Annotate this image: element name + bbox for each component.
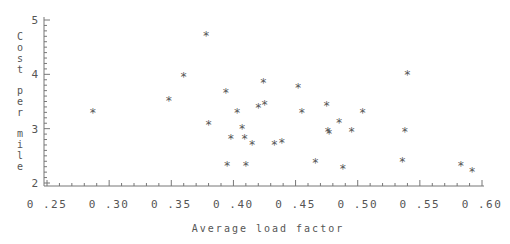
data-point: * — [335, 116, 342, 130]
data-point: * — [323, 99, 330, 113]
svg-text:0 .45: 0 .45 — [275, 198, 316, 211]
svg-text:e: e — [17, 96, 23, 107]
svg-text:0 .50: 0 .50 — [337, 198, 378, 211]
svg-text:s: s — [17, 53, 23, 64]
svg-text:2: 2 — [31, 177, 38, 190]
data-point: * — [165, 94, 172, 108]
data-point: * — [222, 86, 229, 100]
svg-text:o: o — [17, 42, 23, 53]
data-points: ********************************* — [89, 29, 475, 179]
data-point: * — [294, 81, 301, 95]
data-point: * — [261, 98, 268, 112]
scatter-chart: 2345 0 .250 .300 .350 .400 .450 .500 .55… — [0, 0, 510, 244]
data-point: * — [339, 162, 346, 176]
svg-text:0 .25: 0 .25 — [27, 198, 68, 211]
svg-text:r: r — [17, 107, 23, 118]
data-point: * — [180, 70, 187, 84]
svg-text:3: 3 — [31, 123, 38, 136]
svg-text:0 .60: 0 .60 — [462, 198, 503, 211]
data-point: * — [271, 138, 278, 152]
svg-text:m: m — [17, 128, 23, 139]
data-point: * — [468, 165, 475, 179]
data-point: * — [234, 106, 241, 120]
y-tick-labels: 2345 — [31, 14, 38, 190]
svg-text:0 .55: 0 .55 — [400, 198, 441, 211]
data-point: * — [312, 156, 319, 170]
svg-text:l: l — [17, 150, 23, 161]
data-point: * — [278, 136, 285, 150]
svg-text:p: p — [17, 85, 23, 96]
data-point: * — [359, 106, 366, 120]
data-point: * — [248, 138, 255, 152]
svg-text:t: t — [17, 64, 23, 75]
data-point: * — [401, 125, 408, 139]
data-point: * — [202, 29, 209, 43]
data-point: * — [326, 127, 333, 141]
data-point: * — [260, 76, 267, 90]
data-point: * — [241, 132, 248, 146]
x-axis-label: Average load factor — [192, 223, 344, 234]
data-point: * — [457, 159, 464, 173]
data-point: * — [399, 155, 406, 169]
data-point: * — [205, 118, 212, 132]
svg-text:0 .40: 0 .40 — [213, 198, 254, 211]
svg-text:e: e — [17, 161, 23, 172]
data-point: * — [298, 106, 305, 120]
svg-text:C: C — [17, 31, 23, 42]
data-point: * — [89, 106, 96, 120]
svg-text:4: 4 — [31, 68, 38, 81]
y-axis-label: Costpermile — [17, 31, 23, 172]
data-point: * — [404, 68, 411, 82]
data-point: * — [224, 159, 231, 173]
svg-text:5: 5 — [31, 14, 38, 27]
data-point: * — [227, 132, 234, 146]
data-point: * — [348, 125, 355, 139]
svg-text:0 .35: 0 .35 — [151, 198, 192, 211]
svg-text:i: i — [17, 139, 23, 150]
data-point: * — [242, 159, 249, 173]
x-tick-labels: 0 .250 .300 .350 .400 .450 .500 .550 .60 — [27, 198, 503, 211]
svg-text:0 .30: 0 .30 — [89, 198, 130, 211]
